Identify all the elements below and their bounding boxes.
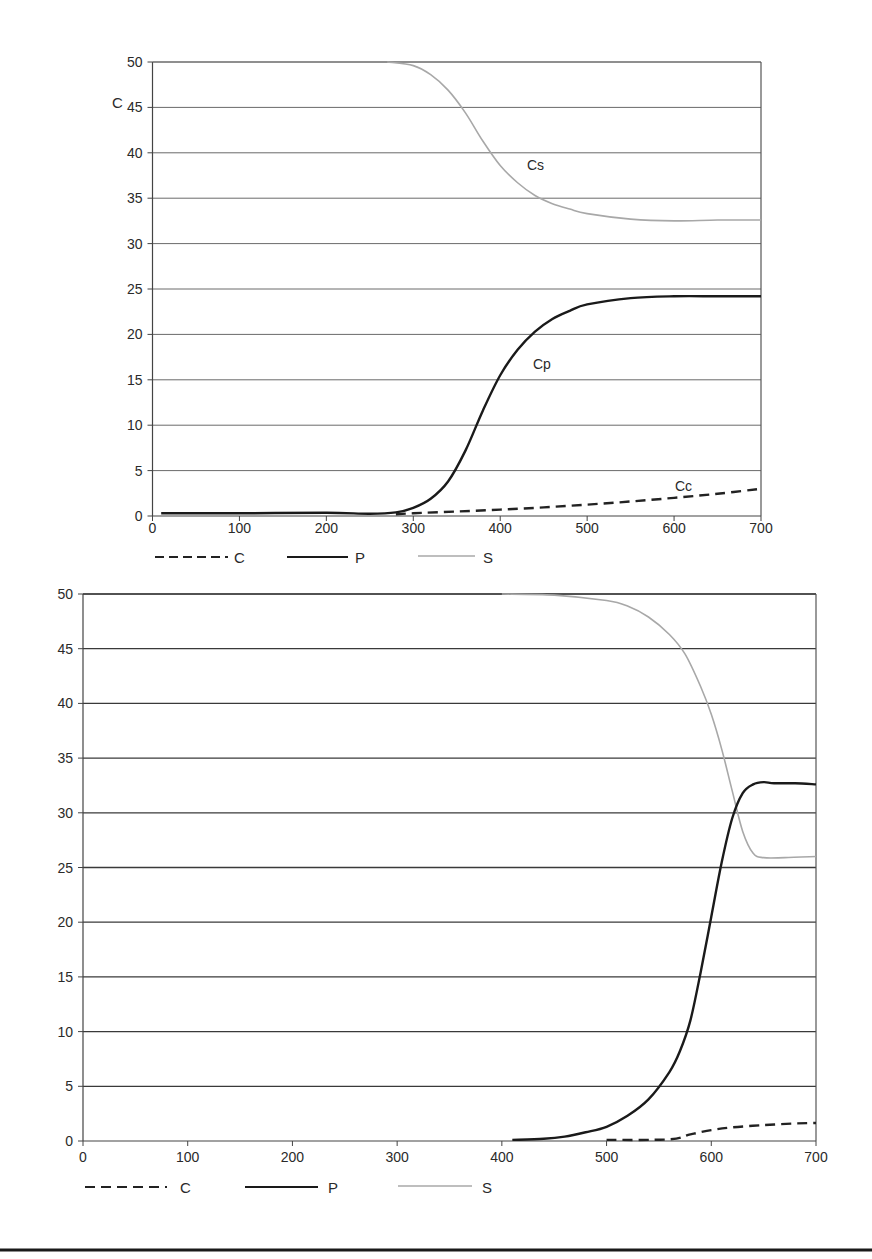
x-tick-label: 700 [804,1149,828,1165]
chart-bottom-tick-labels: 0510152025303540455001002003004005006007… [57,586,827,1165]
y-tick-label: 10 [57,1024,73,1040]
legend-label-c: C [234,549,245,566]
x-tick-label: 200 [281,1149,305,1165]
y-tick-label: 50 [57,586,73,602]
series-line-s [387,62,761,221]
chart-top-series [161,62,761,514]
y-tick-label: 30 [57,805,73,821]
annotation-cp: Cp [533,356,551,372]
x-tick-label: 100 [176,1149,200,1165]
chart-top: 0510152025303540455001002003004005006007… [112,54,773,566]
chart-bottom-axes [78,594,816,1146]
y-tick-label: 35 [57,750,73,766]
y-tick-label: 45 [127,99,143,115]
y-tick-label: 5 [65,1078,73,1094]
legend-label-c: C [180,1179,191,1196]
y-tick-label: 45 [57,641,73,657]
y-tick-label: 50 [127,54,143,70]
x-tick-label: 0 [79,1149,87,1165]
y-tick-label: 20 [127,326,143,342]
x-tick-label: 500 [575,520,599,536]
y-tick-label: 0 [65,1133,73,1149]
x-tick-label: 500 [595,1149,619,1165]
y-tick-label: 25 [127,281,143,297]
y-tick-label: 20 [57,914,73,930]
series-line-s [502,594,816,858]
x-tick-label: 600 [662,520,686,536]
x-tick-label: 400 [490,1149,514,1165]
y-tick-label: 30 [127,236,143,252]
x-tick-label: 0 [149,520,157,536]
y-tick-label: 25 [57,860,73,876]
legend-label-s: S [483,549,493,566]
y-tick-label: 40 [57,695,73,711]
x-tick-label: 700 [749,520,773,536]
chart-top-tick-labels: 0510152025303540455001002003004005006007… [127,54,773,536]
legend-label-s: S [482,1179,492,1196]
x-tick-label: 300 [402,520,426,536]
series-line-p [161,296,761,514]
chart-top-axes [148,62,762,521]
x-tick-label: 600 [700,1149,724,1165]
legend-label-p: P [355,549,365,566]
figure-canvas: 0510152025303540455001002003004005006007… [0,0,872,1259]
y-tick-label: 35 [127,190,143,206]
chart-top-gridlines [153,62,762,471]
chart-top-y-axis-label: C [112,94,123,111]
y-tick-label: 15 [127,372,143,388]
x-tick-label: 300 [385,1149,409,1165]
x-tick-label: 200 [315,520,339,536]
chart-top-legend: C P S [155,549,493,566]
x-tick-label: 400 [489,520,513,536]
y-tick-label: 10 [127,417,143,433]
series-line-c [396,489,761,514]
y-tick-label: 0 [135,508,143,524]
chart-bottom-legend: C P S [85,1179,492,1196]
chart-bottom-gridlines [83,594,816,1086]
annotation-cc: Cc [675,478,692,494]
annotation-cs: Cs [527,157,544,173]
legend-label-p: P [328,1179,338,1196]
y-tick-label: 40 [127,145,143,161]
y-tick-label: 15 [57,969,73,985]
series-line-c [607,1123,816,1140]
chart-bottom: 0510152025303540455001002003004005006007… [57,586,827,1196]
y-tick-label: 5 [135,463,143,479]
x-tick-label: 100 [228,520,252,536]
